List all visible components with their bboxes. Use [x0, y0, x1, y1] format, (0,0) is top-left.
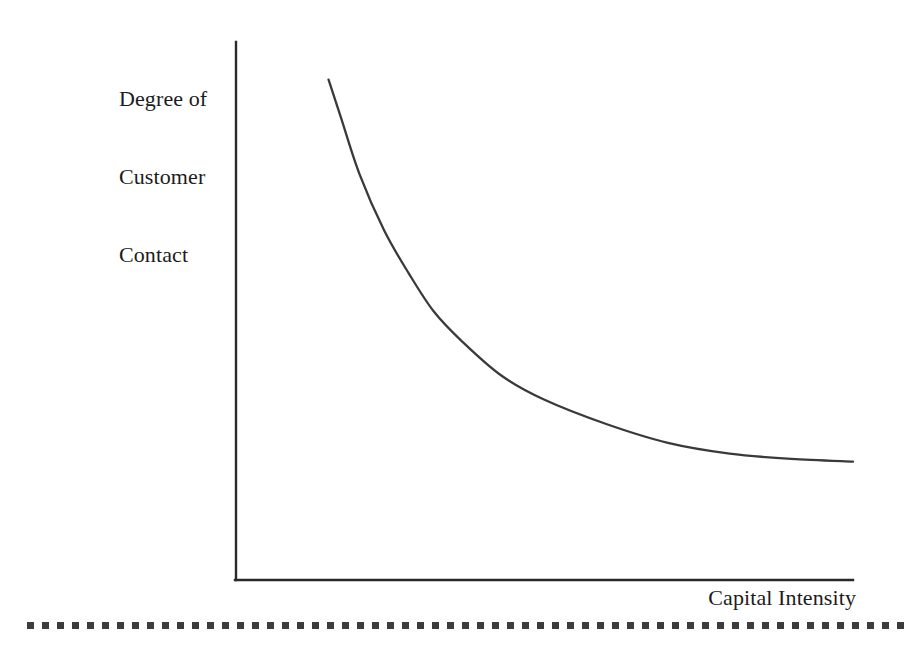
rule-dot [57, 622, 64, 629]
rule-dot [402, 622, 409, 629]
dotted-separator-rule [27, 622, 902, 630]
rule-dot [807, 622, 814, 629]
rule-dot [777, 622, 784, 629]
rule-dot [327, 622, 334, 629]
rule-dot [417, 622, 424, 629]
rule-dot [732, 622, 739, 629]
rule-dot [72, 622, 79, 629]
rule-dot [222, 622, 229, 629]
rule-dot [252, 622, 259, 629]
rule-dot [597, 622, 604, 629]
rule-dot [642, 622, 649, 629]
rule-dot [42, 622, 49, 629]
rule-dot [537, 622, 544, 629]
y-axis-label-line-1: Degree of [119, 86, 231, 112]
y-axis-label-line-2: Customer [119, 164, 231, 190]
rule-dot [552, 622, 559, 629]
rule-dot [132, 622, 139, 629]
rule-dot [867, 622, 874, 629]
rule-dot [357, 622, 364, 629]
rule-dot [282, 622, 289, 629]
rule-dot [237, 622, 244, 629]
rule-dot [87, 622, 94, 629]
rule-dot [162, 622, 169, 629]
rule-dot [102, 622, 109, 629]
rule-dot [837, 622, 844, 629]
rule-dot [207, 622, 214, 629]
rule-dot [762, 622, 769, 629]
rule-dot [432, 622, 439, 629]
rule-dot [657, 622, 664, 629]
data-curve-group [329, 80, 853, 462]
rule-dot [897, 622, 904, 629]
data-curve [329, 80, 853, 462]
rule-dot [687, 622, 694, 629]
rule-dot [522, 622, 529, 629]
rule-dot [342, 622, 349, 629]
rule-dot [462, 622, 469, 629]
rule-dot [177, 622, 184, 629]
rule-dot [477, 622, 484, 629]
rule-dot [117, 622, 124, 629]
rule-dot [297, 622, 304, 629]
rule-dot [267, 622, 274, 629]
rule-dot [507, 622, 514, 629]
rule-dot [387, 622, 394, 629]
rule-dot [792, 622, 799, 629]
y-axis-label-line-3: Contact [119, 242, 231, 268]
rule-dot [567, 622, 574, 629]
rule-dot [27, 622, 34, 629]
rule-dot [612, 622, 619, 629]
rule-dot [627, 622, 634, 629]
axis-group [235, 42, 853, 580]
rule-dot [192, 622, 199, 629]
rule-dot [147, 622, 154, 629]
rule-dot [672, 622, 679, 629]
rule-dot [747, 622, 754, 629]
rule-dot [447, 622, 454, 629]
rule-dot [822, 622, 829, 629]
rule-dot [852, 622, 859, 629]
rule-dot [717, 622, 724, 629]
rule-dot [492, 622, 499, 629]
y-axis-label: Degree of Customer Contact [119, 34, 231, 320]
rule-dot [882, 622, 889, 629]
rule-dot [582, 622, 589, 629]
rule-dot [312, 622, 319, 629]
x-axis-label: Capital Intensity [560, 585, 856, 611]
rule-dot [702, 622, 709, 629]
rule-dot [372, 622, 379, 629]
